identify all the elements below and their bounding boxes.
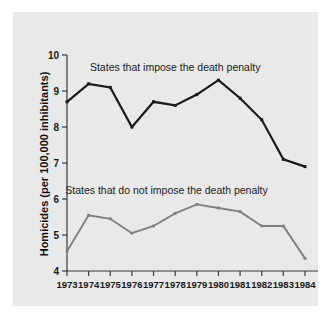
x-tick-label: 1984 — [294, 279, 316, 290]
figure-container: Homicides (per 100,000 inhibitants) 1098… — [0, 0, 331, 326]
data-point-marker — [130, 126, 133, 129]
data-point-marker — [109, 86, 112, 89]
data-point-marker — [174, 104, 177, 107]
data-point-marker — [195, 93, 198, 96]
data-point-marker — [87, 82, 90, 85]
data-point-marker — [174, 212, 177, 215]
series-line-1 — [67, 204, 305, 258]
data-point-marker — [66, 100, 69, 103]
data-point-marker — [87, 214, 90, 217]
data-point-marker — [217, 79, 220, 82]
data-point-marker — [217, 207, 220, 210]
data-point-marker — [152, 100, 155, 103]
y-tick-label: 6 — [53, 194, 59, 205]
data-point-marker — [239, 210, 242, 213]
x-tick-label: 1979 — [186, 279, 207, 290]
x-tick-label: 1975 — [100, 279, 122, 290]
data-point-marker — [131, 232, 134, 235]
y-tick-label: 10 — [48, 50, 60, 61]
data-point-marker — [66, 250, 69, 253]
y-tick-label: 7 — [53, 158, 59, 169]
series-annotation-1: States that do not impose the death pena… — [65, 184, 268, 196]
data-point-marker — [109, 217, 112, 220]
data-point-marker — [304, 165, 307, 168]
data-point-marker — [304, 257, 307, 260]
data-point-marker — [282, 158, 285, 161]
data-point-marker — [152, 225, 155, 228]
y-tick-label: 5 — [53, 230, 59, 241]
chart-panel: Homicides (per 100,000 inhibitants) 1098… — [13, 12, 318, 306]
data-point-marker — [239, 97, 242, 100]
x-tick-label: 1977 — [143, 279, 164, 290]
x-tick-label: 1981 — [230, 279, 252, 290]
data-point-marker — [260, 118, 263, 121]
x-tick-label: 1974 — [78, 279, 100, 290]
series-annotation-0: States that impose the death penalty — [90, 61, 261, 73]
series-line-0 — [67, 80, 305, 166]
x-tick-label: 1973 — [56, 279, 77, 290]
x-tick-label: 1980 — [208, 279, 229, 290]
x-tick-label: 1983 — [273, 279, 294, 290]
y-tick-label: 4 — [53, 266, 59, 277]
data-point-marker — [195, 203, 198, 206]
y-tick-label: 8 — [53, 122, 59, 133]
line-chart-plot: 1098765419731974197519761977197819791980… — [13, 12, 318, 306]
x-tick-label: 1976 — [121, 279, 142, 290]
data-point-marker — [282, 225, 285, 228]
y-tick-label: 9 — [53, 86, 59, 97]
x-tick-label: 1978 — [165, 279, 186, 290]
data-point-marker — [260, 225, 263, 228]
x-tick-label: 1982 — [251, 279, 272, 290]
